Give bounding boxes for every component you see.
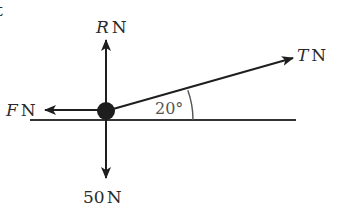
reaction-symbol: R (95, 17, 109, 37)
reaction-unit: N (112, 17, 127, 37)
tension-force-label: TN (297, 45, 326, 65)
tension-unit: N (311, 45, 326, 65)
weight-value: 50 (83, 187, 105, 207)
weight-unit: N (107, 187, 122, 207)
tension-force-arrow (106, 58, 293, 111)
friction-unit: N (21, 100, 36, 120)
angle-arc (188, 90, 193, 120)
reaction-force-label: RN (95, 17, 127, 37)
particle-dot (97, 102, 115, 120)
angle-label: 20° (155, 99, 183, 118)
cutoff-text-fragment: t (0, 0, 3, 20)
friction-force-label: FN (5, 100, 36, 120)
weight-force-label: 50N (83, 187, 122, 207)
tension-symbol: T (297, 45, 310, 65)
force-diagram: t RN FN TN 50N 20° (0, 0, 343, 220)
friction-symbol: F (5, 100, 19, 120)
